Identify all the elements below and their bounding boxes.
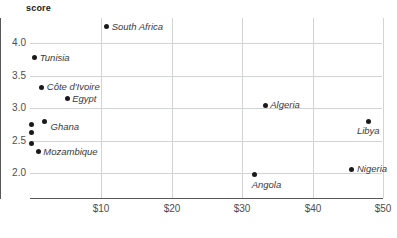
- data-point-egypt: [65, 96, 70, 101]
- data-point-libya: [366, 119, 371, 124]
- gridline-y-2.5: [30, 141, 382, 142]
- gridline-y-3.0: [30, 108, 382, 109]
- point-label: Egypt: [72, 94, 96, 104]
- point-label: Algeria: [270, 100, 300, 110]
- point-label: Libya: [357, 126, 380, 136]
- data-point-c-te-d-ivoire: [39, 85, 44, 90]
- y-tick-label: 3.0: [2, 103, 26, 113]
- gridline-y-3.5: [30, 76, 382, 77]
- gridline-x-10: [101, 18, 102, 198]
- x-tick-label: $40: [293, 203, 333, 215]
- x-tick-label: $50: [363, 203, 397, 215]
- data-point-tunisia: [32, 55, 37, 60]
- gridline-y-2.0: [30, 173, 382, 174]
- x-tick-label: $30: [222, 203, 262, 215]
- data-point-nigeria: [349, 167, 354, 172]
- gridline-y-4.0: [30, 43, 382, 44]
- data-point-ghana: [42, 119, 47, 124]
- data-point-angola: [252, 172, 257, 177]
- y-tick-label: 3.5: [2, 71, 26, 81]
- point-label: Ghana: [51, 122, 80, 132]
- point-label: Nigeria: [357, 164, 387, 174]
- gridline-x-40: [313, 18, 314, 198]
- data-point-algeria: [263, 103, 268, 108]
- y-tick-label: 2.0: [2, 168, 26, 178]
- point-label: Tunisia: [40, 53, 70, 63]
- point-label: Côte d'Ivoire: [47, 82, 100, 92]
- data-point: [29, 141, 34, 146]
- y-axis-title: score: [26, 2, 51, 14]
- y-tick-label: 4.0: [2, 38, 26, 48]
- y-axis-line: [0, 18, 1, 199]
- x-tick-label: $10: [81, 203, 121, 215]
- data-point-mozambique: [36, 149, 41, 154]
- x-tick-label: $20: [152, 203, 192, 215]
- scatter-chart: score 4.03.53.02.52.0 $10$20$30$40$50 So…: [0, 0, 397, 238]
- data-point-south-africa: [104, 24, 109, 29]
- gridline-x-20: [172, 18, 173, 198]
- point-label: Angola: [252, 180, 282, 190]
- data-point: [29, 130, 34, 135]
- x-axis-line: [30, 198, 383, 199]
- point-label: South Africa: [112, 22, 163, 32]
- gridline-x-30: [242, 18, 243, 198]
- data-point: [29, 122, 34, 127]
- y-tick-label: 2.5: [2, 136, 26, 146]
- point-label: Mozambique: [43, 147, 97, 157]
